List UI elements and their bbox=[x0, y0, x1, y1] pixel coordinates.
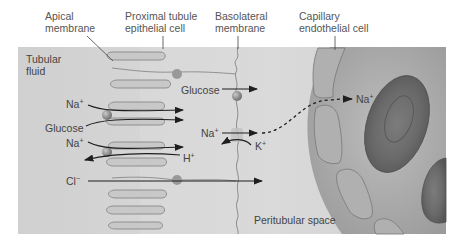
label-apical-membrane: Apical membrane bbox=[45, 10, 95, 34]
label-k: K+ bbox=[255, 140, 266, 152]
label-basolateral-membrane: Basolateral membrane bbox=[215, 10, 268, 34]
glucose-transporter bbox=[232, 91, 242, 101]
label-na-2: Na+ bbox=[66, 137, 84, 149]
na-glucose-symporter bbox=[102, 110, 112, 120]
label-tubular-fluid: Tubular fluid bbox=[26, 53, 61, 77]
label-proximal-tubule-cell: Proximal tubule epithelial cell bbox=[125, 10, 197, 34]
label-peritubular-space: Peritubular space bbox=[254, 214, 336, 226]
label-capillary-endothelial-cell: Capillary endothelial cell bbox=[299, 10, 368, 34]
label-h: H+ bbox=[183, 152, 195, 164]
label-cl: Cl− bbox=[66, 175, 80, 187]
label-glucose-basolateral: Glucose bbox=[181, 84, 220, 96]
label-glucose-apical: Glucose bbox=[45, 122, 84, 134]
tight-junction-protein-top bbox=[172, 69, 182, 79]
label-na-blood: Na+ bbox=[356, 93, 374, 105]
label-na-1: Na+ bbox=[66, 98, 84, 110]
label-na-basolateral: Na+ bbox=[201, 127, 219, 139]
tight-junction-protein-bottom bbox=[172, 175, 182, 185]
